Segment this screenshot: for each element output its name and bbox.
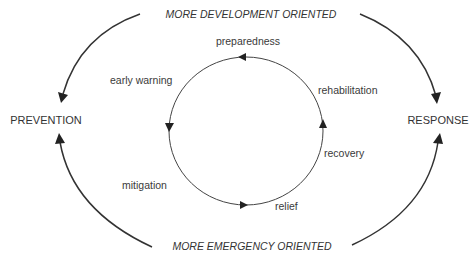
arrowhead-right-icon [240, 201, 248, 209]
arrowhead-up-icon [55, 133, 65, 144]
arrowhead-down-icon [431, 92, 441, 104]
bottom-axis-label: MORE EMERGENCY ORIENTED [172, 240, 331, 252]
phase-rehabilitation: rehabilitation [318, 84, 378, 96]
phase-recovery: recovery [324, 147, 365, 159]
arrowhead-left-icon [238, 53, 246, 61]
response-label: RESPONSE [407, 114, 468, 126]
arrowhead-up-icon [433, 133, 443, 144]
arrowhead-down-icon [165, 123, 174, 132]
prevention-label: PREVENTION [10, 114, 82, 126]
top-left-arrow [58, 14, 140, 103]
arrowhead-up-icon [319, 119, 327, 128]
phase-mitigation: mitigation [122, 179, 167, 191]
phase-relief: relief [275, 200, 298, 212]
arrowhead-down-icon [58, 92, 68, 103]
disaster-management-cycle-diagram: MORE DEVELOPMENT ORIENTED MORE EMERGENCY… [0, 0, 476, 260]
phase-preparedness: preparedness [216, 35, 280, 47]
top-axis-label: MORE DEVELOPMENT ORIENTED [166, 8, 337, 20]
bottom-right-arrow [352, 133, 443, 245]
phase-early-warning: early warning [110, 74, 173, 86]
cycle-ring [165, 53, 327, 209]
